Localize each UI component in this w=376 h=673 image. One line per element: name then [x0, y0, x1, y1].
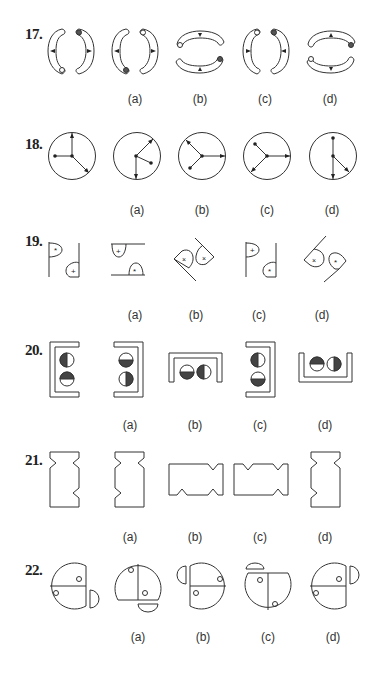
question-number: 22.: [25, 562, 42, 579]
option-a-label[interactable]: (a): [131, 630, 146, 644]
option-a-label[interactable]: (a): [128, 92, 143, 106]
option-a-figure-17[interactable]: [112, 26, 158, 76]
option-c-label[interactable]: (c): [258, 92, 272, 106]
option-b-label[interactable]: (b): [188, 530, 203, 544]
option-b-figure-18[interactable]: [178, 132, 228, 182]
option-a-figure-18[interactable]: [112, 132, 162, 182]
option-a-label[interactable]: (a): [130, 203, 145, 217]
option-a-figure-22[interactable]: [114, 562, 164, 614]
question-number: 17.: [25, 26, 42, 43]
option-d-figure-18[interactable]: [309, 132, 359, 182]
svg-text:+: +: [116, 247, 121, 256]
option-d-figure-21[interactable]: [310, 451, 342, 508]
option-a-figure-19[interactable]: + *: [111, 243, 147, 277]
svg-text:×: ×: [312, 257, 316, 264]
option-d-label[interactable]: (d): [323, 92, 338, 106]
problem-figure-22: [50, 562, 100, 612]
svg-text:+: +: [71, 267, 76, 276]
option-b-label[interactable]: (b): [195, 203, 210, 217]
option-c-label[interactable]: (c): [252, 308, 266, 322]
svg-text:*: *: [54, 246, 57, 255]
question-number: 20.: [25, 342, 42, 359]
option-a-figure-21[interactable]: [114, 451, 146, 508]
option-b-label[interactable]: (b): [188, 418, 203, 432]
problem-figure-18: [48, 132, 98, 182]
svg-text:*: *: [334, 258, 337, 267]
option-c-label[interactable]: (c): [253, 530, 267, 544]
option-d-label[interactable]: (d): [315, 308, 330, 322]
option-b-figure-22[interactable]: [180, 562, 230, 614]
option-c-figure-22[interactable]: [244, 563, 294, 617]
option-c-figure-18[interactable]: [243, 132, 293, 182]
question-number: 19.: [25, 233, 42, 250]
option-d-label[interactable]: (d): [325, 203, 340, 217]
option-a-label[interactable]: (a): [123, 530, 138, 544]
option-d-label[interactable]: (d): [318, 530, 333, 544]
problem-figure-19: * +: [48, 242, 82, 278]
question-number: 18.: [25, 136, 42, 153]
option-d-figure-17[interactable]: [305, 30, 357, 74]
option-b-figure-17[interactable]: [174, 30, 226, 74]
question-number: 21.: [25, 452, 42, 469]
option-c-figure-20[interactable]: [245, 341, 277, 398]
option-a-label[interactable]: (a): [123, 418, 138, 432]
option-b-figure-19[interactable]: × ×: [172, 238, 220, 282]
svg-text:+: +: [250, 246, 255, 255]
svg-text:*: *: [268, 267, 271, 276]
option-b-label[interactable]: (b): [193, 92, 208, 106]
option-b-figure-21[interactable]: [168, 463, 224, 496]
option-a-label[interactable]: (a): [128, 308, 143, 322]
option-c-figure-21[interactable]: [233, 463, 289, 496]
svg-text:×: ×: [202, 255, 206, 262]
option-b-figure-20[interactable]: [168, 352, 223, 383]
problem-figure-20: [49, 341, 81, 398]
problem-figure-17: [48, 26, 94, 76]
option-b-label[interactable]: (b): [189, 308, 204, 322]
svg-text:×: ×: [182, 256, 186, 263]
option-c-label[interactable]: (c): [253, 418, 267, 432]
option-c-figure-17[interactable]: [243, 26, 289, 76]
problem-figure-21: [49, 451, 81, 508]
option-d-figure-22[interactable]: [310, 562, 360, 612]
option-d-label[interactable]: (d): [318, 418, 333, 432]
option-d-figure-20[interactable]: [298, 352, 353, 383]
option-c-label[interactable]: (c): [260, 203, 274, 217]
svg-text:*: *: [133, 267, 136, 276]
option-d-figure-19[interactable]: × *: [302, 236, 350, 282]
option-c-figure-19[interactable]: + *: [245, 242, 279, 278]
option-d-label[interactable]: (d): [326, 630, 341, 644]
option-b-label[interactable]: (b): [196, 630, 211, 644]
option-c-label[interactable]: (c): [261, 630, 275, 644]
option-a-figure-20[interactable]: [113, 341, 145, 398]
